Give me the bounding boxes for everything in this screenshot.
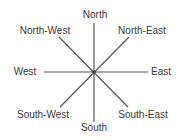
label-north: North xyxy=(83,10,107,20)
label-south-west: South-West xyxy=(17,110,69,120)
label-north-east: North-East xyxy=(118,26,166,36)
label-south-east: South-East xyxy=(118,110,167,120)
label-east: East xyxy=(151,67,171,77)
center-point xyxy=(92,70,95,73)
label-west: West xyxy=(14,67,37,77)
label-north-west: North-West xyxy=(20,26,70,36)
compass-diagram: North North-West North-East West East So… xyxy=(0,0,179,140)
label-south: South xyxy=(81,123,107,133)
